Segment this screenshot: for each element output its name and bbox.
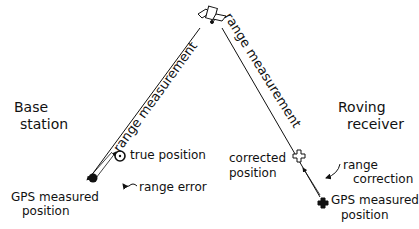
right-gps-measured-icon	[318, 198, 328, 208]
satellite-icon	[198, 6, 226, 23]
left-gps-measured-dot	[89, 174, 98, 183]
range-correction-pointer	[326, 164, 340, 178]
left-gps-measured-line1: GPS measured	[11, 190, 99, 204]
range-correction-line1: range	[343, 158, 378, 172]
range-correction-line2: correction	[353, 172, 413, 186]
true-position-label: true position	[130, 148, 206, 162]
base-station-title-line1: Base	[14, 99, 48, 116]
corrected-position-line2: position	[229, 166, 277, 180]
base-station-title-line2: station	[20, 116, 68, 133]
range-error-pointer	[123, 184, 137, 187]
roving-receiver-title-line2: receiver	[347, 116, 404, 133]
corrected-position-line1: corrected	[229, 151, 286, 165]
right-range-correction-arrow	[303, 168, 320, 195]
right-gps-measured-line1: GPS measured	[331, 193, 419, 207]
range-error-label: range error	[139, 180, 207, 194]
roving-receiver-title-line1: Roving	[338, 99, 386, 116]
right-gps-measured-line2: position	[341, 208, 389, 222]
corrected-position-icon	[293, 150, 305, 162]
left-gps-measured-line2: position	[22, 204, 70, 218]
